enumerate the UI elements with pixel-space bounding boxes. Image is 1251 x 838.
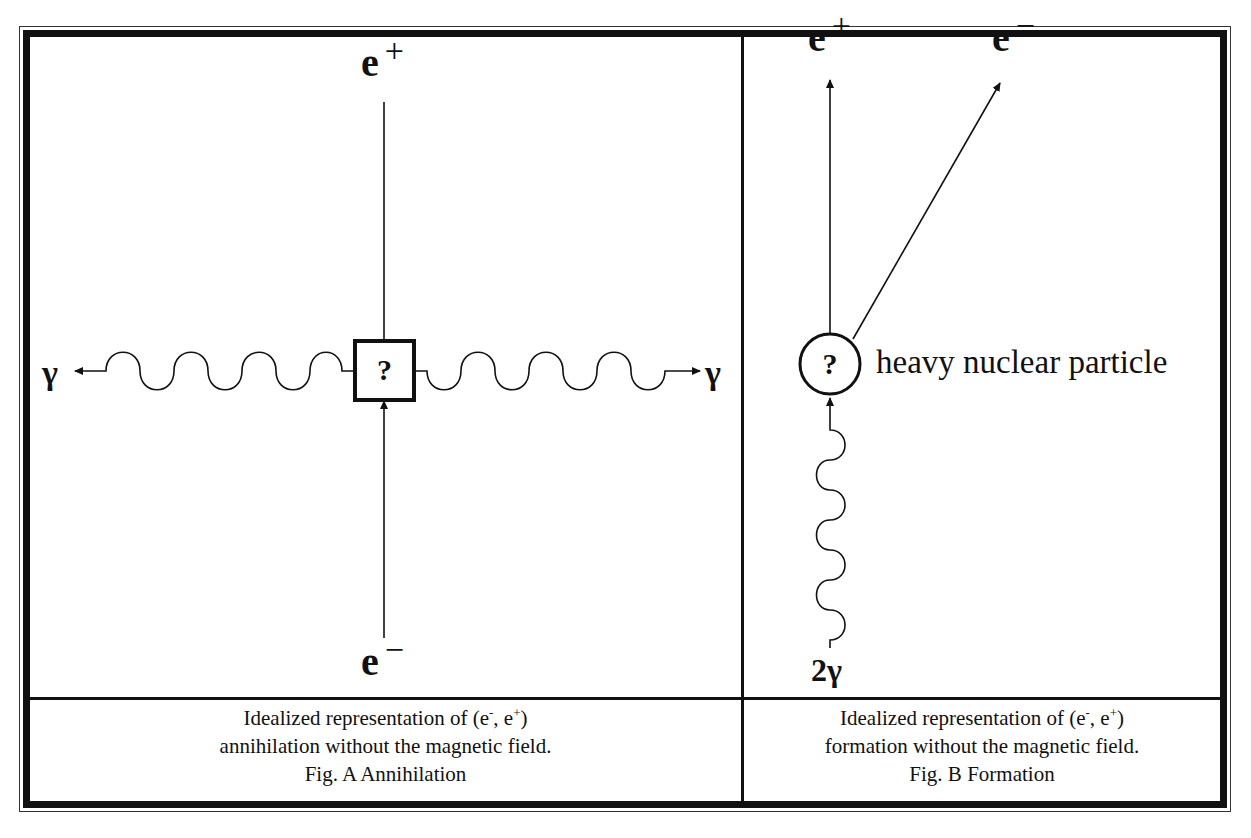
photon-wave-left: [75, 352, 353, 390]
gamma-label-left: γ: [42, 356, 58, 390]
gamma-label-right: γ: [705, 356, 721, 390]
heavy-nuclear-particle-label: heavy nuclear particle: [876, 346, 1167, 379]
electron-symbol: e: [361, 639, 379, 684]
caption-b-line1: Idealized representation of (e-, e+): [744, 704, 1220, 732]
positron-charge: +: [385, 32, 404, 69]
positron-charge: +: [832, 7, 851, 44]
electron-label-a: e−: [361, 642, 404, 682]
positron-symbol: e: [361, 40, 379, 85]
positron-label-b: e+: [808, 18, 851, 58]
positron-symbol: e: [808, 15, 826, 60]
electron-charge: −: [385, 631, 404, 668]
caption-a-line2: annihilation without the magnetic field.: [30, 732, 741, 760]
caption-fig-b: Idealized representation of (e-, e+) for…: [744, 704, 1220, 788]
positron-label-a: e+: [361, 43, 404, 83]
electron-label-b: e−: [992, 18, 1035, 58]
unknown-mark-b: ?: [800, 349, 860, 379]
caption-fig-a: Idealized representation of (e-, e+) ann…: [30, 704, 741, 788]
caption-a-line1: Idealized representation of (e-, e+): [30, 704, 741, 732]
caption-b-line2: formation without the magnetic field.: [744, 732, 1220, 760]
electron-line-b: [853, 83, 1000, 339]
electron-charge: −: [1016, 7, 1035, 44]
two-gamma-label: 2γ: [811, 654, 842, 686]
electron-symbol: e: [992, 15, 1010, 60]
caption-a-title: Fig. A Annihilation: [30, 760, 741, 788]
caption-b-title: Fig. B Formation: [744, 760, 1220, 788]
unknown-mark-a: ?: [355, 355, 414, 385]
photon-wave-right: [416, 352, 700, 390]
photon-wave-incoming: [817, 398, 846, 648]
